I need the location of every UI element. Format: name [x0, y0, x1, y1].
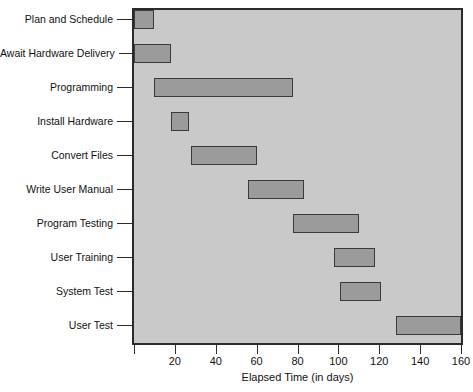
y-axis-label: Convert Files — [51, 149, 113, 161]
x-axis-tick — [461, 345, 462, 354]
x-axis-tick-label: 160 — [441, 355, 473, 367]
x-axis-tick — [338, 345, 339, 354]
y-axis-label-row: Programming — [0, 80, 132, 94]
y-axis-tick — [125, 121, 133, 122]
x-axis-tick-label: 60 — [237, 355, 277, 367]
y-axis-label-row: Program Testing — [0, 216, 132, 230]
y-axis-label: Write User Manual — [26, 183, 113, 195]
x-axis-tick-label: 140 — [400, 355, 440, 367]
gantt-bar — [154, 78, 293, 97]
y-axis-label-row: Install Hardware — [0, 114, 132, 128]
x-axis-tick-label: 100 — [318, 355, 358, 367]
plot-area — [132, 8, 463, 345]
y-axis-label-row: Convert Files — [0, 148, 132, 162]
y-axis-label-row: User Test — [0, 318, 132, 332]
y-axis-tick — [125, 19, 133, 20]
y-axis-label: User Test — [69, 319, 113, 331]
y-axis-label-row: User Training — [0, 250, 132, 264]
y-axis-tick — [125, 223, 133, 224]
y-axis-tick — [125, 87, 133, 88]
gantt-bar — [340, 282, 381, 301]
y-axis-label: User Training — [51, 251, 113, 263]
x-axis-tick-label: 40 — [196, 355, 236, 367]
y-axis-label: Plan and Schedule — [25, 13, 113, 25]
gantt-bar — [396, 316, 461, 335]
y-axis-label-row: System Test — [0, 284, 132, 298]
x-axis-tick-label: 80 — [278, 355, 318, 367]
y-axis-tick — [125, 257, 133, 258]
x-axis-tick — [298, 345, 299, 354]
x-axis-tick — [420, 345, 421, 354]
gantt-bar — [171, 112, 189, 131]
gantt-chart-figure: Plan and ScheduleAwait Hardware Delivery… — [0, 0, 473, 392]
y-axis-label: Install Hardware — [37, 115, 113, 127]
y-axis-label-row: Write User Manual — [0, 182, 132, 196]
y-axis-tick — [125, 155, 133, 156]
x-axis-title: Elapsed Time (in days) — [132, 371, 463, 383]
y-axis-label-row: Plan and Schedule — [0, 12, 132, 26]
y-axis-label: Program Testing — [37, 217, 113, 229]
y-axis-tick — [125, 325, 133, 326]
x-axis-tick — [134, 345, 135, 354]
y-axis-tick — [125, 291, 133, 292]
gantt-bar — [134, 10, 154, 29]
y-axis-label: Await Hardware Delivery — [0, 47, 115, 59]
y-axis-label: Programming — [50, 81, 113, 93]
gantt-bar — [248, 180, 303, 199]
x-axis-tick — [216, 345, 217, 354]
x-axis-tick-label: 120 — [359, 355, 399, 367]
x-axis-tick-label: 20 — [155, 355, 195, 367]
gantt-bar — [334, 248, 375, 267]
y-axis-label-row: Await Hardware Delivery — [0, 46, 132, 60]
y-axis-label: System Test — [56, 285, 113, 297]
gantt-bar — [134, 44, 171, 63]
y-axis-tick — [125, 189, 133, 190]
gantt-bar — [293, 214, 358, 233]
x-axis-tick — [379, 345, 380, 354]
x-axis-tick — [257, 345, 258, 354]
x-axis-tick — [175, 345, 176, 354]
y-axis-tick — [125, 53, 133, 54]
gantt-bar — [191, 146, 256, 165]
